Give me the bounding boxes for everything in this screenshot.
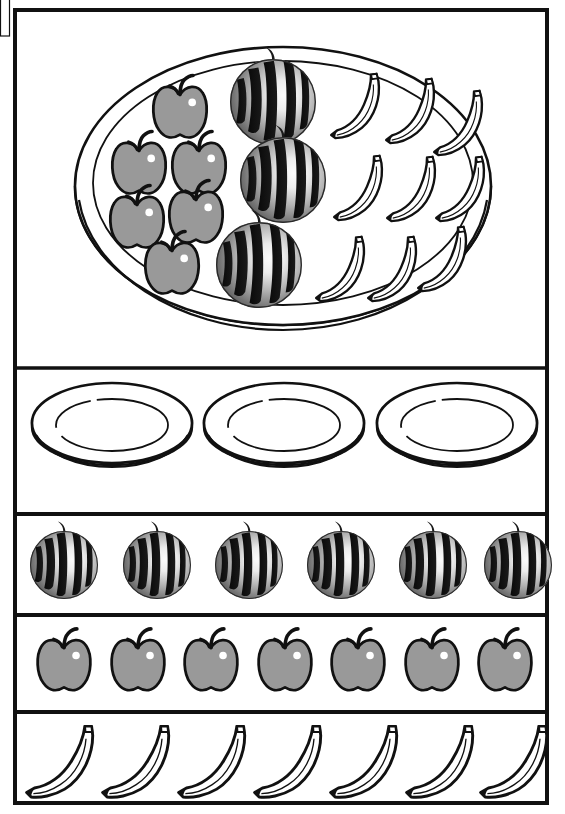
plate-icon: [204, 383, 364, 467]
plate-icon: [32, 383, 192, 467]
worksheet-canvas: [0, 0, 565, 814]
worksheet-page: One large bowl holding 6 apples, 3 water…: [0, 0, 565, 814]
plates-panel: [32, 383, 537, 467]
corner-marker: [1, 0, 10, 36]
plate-icon: [377, 383, 537, 467]
